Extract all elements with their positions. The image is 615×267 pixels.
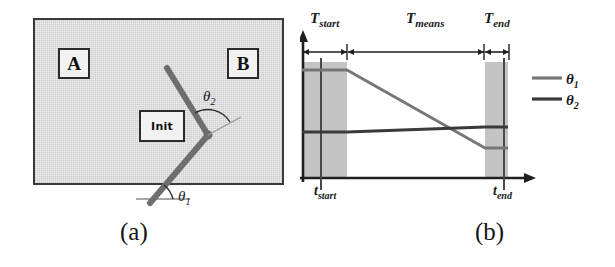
- workspace-label-a: A: [58, 48, 90, 79]
- phase-label-t-start: Tstart: [310, 10, 339, 29]
- t-start-subscript: start: [319, 17, 339, 29]
- workspace-area: [33, 18, 284, 185]
- theta1-annotation-label: θ1: [178, 188, 190, 207]
- t-start-symbol: T: [310, 10, 319, 26]
- figure-root: A B Init θ2 θ1 (a): [0, 0, 615, 267]
- legend-label-theta2: θ2: [566, 92, 579, 111]
- caption-panel-a: (a): [120, 218, 148, 246]
- panel-b-trajectory-chart: Tstart Tmeans Tend tstart tend θ1 θ2 (b): [300, 0, 615, 267]
- tick-t-start-subscript: start: [318, 190, 336, 201]
- legend-theta1-symbol: θ: [566, 71, 574, 87]
- phase-label-t-means: Tmeans: [406, 10, 445, 29]
- x-tick-label-t-start: tstart: [314, 183, 336, 201]
- panel-a-robot-workspace: A B Init θ2 θ1 (a): [0, 0, 300, 267]
- legend-theta2-subscript: 2: [574, 100, 579, 111]
- tick-t-end-subscript: end: [497, 190, 512, 201]
- t-end-symbol: T: [484, 10, 493, 26]
- theta2-annotation-label: θ2: [203, 88, 215, 107]
- theta1-angle-arc: [164, 185, 173, 199]
- legend-label-theta1: θ1: [566, 71, 579, 90]
- t-means-subscript: means: [415, 17, 444, 29]
- theta2-subscript: 2: [210, 96, 215, 107]
- shaded-region-t-start: [302, 62, 347, 178]
- t-end-subscript: end: [493, 17, 510, 29]
- caption-panel-b: (b): [475, 218, 504, 246]
- workspace-label-b: B: [227, 48, 259, 79]
- trajectory-plot: [300, 0, 615, 267]
- phase-label-t-end: Tend: [484, 10, 510, 29]
- t-means-symbol: T: [406, 10, 415, 26]
- phase-dimension-arrows: [303, 44, 509, 60]
- x-tick-label-t-end: tend: [493, 183, 512, 201]
- legend-theta2-symbol: θ: [566, 92, 574, 108]
- workspace-label-init: Init: [139, 110, 185, 142]
- theta1-subscript: 1: [185, 196, 190, 207]
- legend-theta1-subscript: 1: [574, 79, 579, 90]
